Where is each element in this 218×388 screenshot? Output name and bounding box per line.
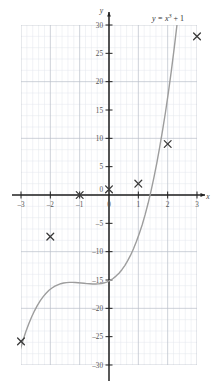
x-tick-label: –2 bbox=[46, 201, 55, 209]
equation-annotation: y=x3+ 1 bbox=[151, 13, 184, 23]
equation-exponent: 3 bbox=[168, 13, 172, 19]
x-tick-label-zero: 0 bbox=[107, 201, 111, 209]
y-tick-label: 10 bbox=[96, 135, 104, 143]
y-axis-arrow bbox=[107, 12, 111, 17]
x-axis-label: x bbox=[205, 192, 210, 201]
y-tick-label: 25 bbox=[96, 50, 104, 58]
x-tick-label: 3 bbox=[195, 201, 199, 209]
y-tick-label: –25 bbox=[91, 333, 103, 341]
y-tick-label: –5 bbox=[95, 220, 104, 228]
cubic-function-plot: 30 25 20 15 10 5 0 –5 –10 –15 –20 –25 –3… bbox=[0, 0, 218, 388]
y-tick-label: –30 bbox=[91, 362, 103, 370]
y-tick-label: 15 bbox=[96, 107, 104, 115]
y-tick-label: 20 bbox=[96, 78, 104, 86]
y-tick-label-zero: 0 bbox=[99, 186, 103, 194]
x-tick-label: 1 bbox=[137, 201, 141, 209]
equation-lhs: y bbox=[151, 14, 156, 23]
x-tick-label: –1 bbox=[75, 201, 84, 209]
x-tick-label: –3 bbox=[16, 201, 25, 209]
svg-text:y=x3+ 1: y=x3+ 1 bbox=[151, 13, 184, 23]
y-tick-label: 30 bbox=[96, 22, 104, 30]
y-tick-label: –20 bbox=[91, 305, 103, 313]
y-axis-label: y bbox=[99, 6, 104, 15]
equation-tail: + 1 bbox=[173, 14, 184, 23]
y-tick-label: –10 bbox=[91, 248, 103, 256]
equation-equals: = bbox=[158, 14, 163, 23]
x-tick-label: 2 bbox=[166, 201, 170, 209]
graph-figure: 30 25 20 15 10 5 0 –5 –10 –15 –20 –25 –3… bbox=[0, 0, 218, 388]
y-tick-label: 5 bbox=[99, 163, 103, 171]
x-axis-arrow bbox=[201, 193, 206, 197]
